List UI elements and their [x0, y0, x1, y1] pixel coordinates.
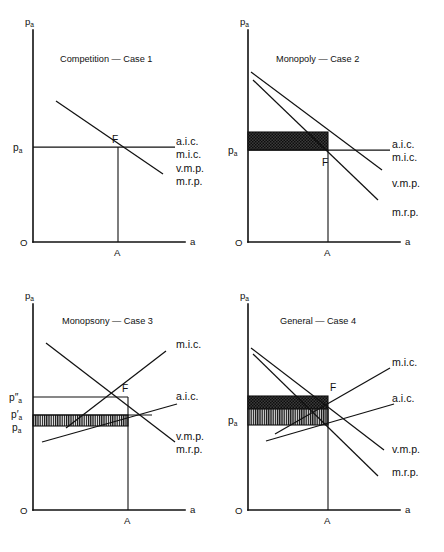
point-label-f-case-4: F [330, 382, 336, 393]
point-label-f-case-3: F [122, 383, 128, 394]
curve-label-mic-case-3: m.i.c. [176, 338, 201, 350]
price-label-pa-prime-case-3: p′a [11, 409, 23, 421]
origin-label-case-3: O [20, 505, 27, 516]
point-label-f-case-1: F [112, 134, 118, 145]
y-axis-label-case-4: pa [240, 290, 249, 302]
curve-label-mic-case-1: m.i.c. [176, 148, 201, 160]
curve-label-aic-case-4: a.i.c. [392, 392, 414, 404]
price-label-pa-case-3: pa [12, 422, 22, 434]
curve-label-aic-case-3: a.i.c. [176, 390, 198, 402]
x-axis-label-case-2: a [405, 236, 411, 247]
tick-label-a-case-1: A [114, 247, 121, 258]
panel-case-2: pa a O Monopoly — Case 2 pa F A a.i.c. m… [222, 0, 444, 276]
origin-label-case-4: O [235, 505, 242, 516]
curve-label-mrp-case-2: m.r.p. [392, 206, 419, 218]
curve-label-vmp-case-3: v.m.p. [176, 430, 204, 442]
y-axis-label-case-1: pa [25, 16, 34, 28]
chart-case-3: pa a O Monopsony — Case 3 p″a p′a pa F A [0, 276, 222, 552]
curve-label-mic-case-4: m.i.c. [392, 356, 417, 368]
price-label-pa-case-4: pa [228, 415, 238, 427]
curve-label-mrp-case-1: m.r.p. [176, 175, 203, 187]
curve-label-aic-case-2: a.i.c. [392, 138, 414, 150]
panel-case-3: pa a O Monopsony — Case 3 p″a p′a pa F A [0, 276, 222, 552]
curve-label-vmp-case-1: v.m.p. [176, 162, 204, 174]
chart-case-2: pa a O Monopoly — Case 2 pa F A a.i.c. m… [222, 0, 444, 276]
y-axis-label-case-3: pa [25, 290, 34, 302]
x-axis-label-case-1: a [190, 236, 196, 247]
curve-label-aic-case-1: a.i.c. [176, 135, 198, 147]
price-label-pa-case-1: pa [13, 142, 23, 154]
panel-title-case-1: Competition — Case 1 [60, 54, 152, 64]
panel-title-case-4: General — Case 4 [280, 316, 356, 326]
curve-label-mic-case-2: m.i.c. [392, 151, 417, 163]
tick-label-a-case-4: A [324, 515, 331, 526]
figure-four-cases: pa a O Competition — Case 1 pa F A a.i.c… [0, 0, 444, 552]
x-axis-label-case-3: a [190, 504, 196, 515]
origin-label-case-1: O [20, 237, 27, 248]
y-axis-label-case-2: pa [240, 16, 249, 28]
curve-label-mrp-case-3: m.r.p. [176, 443, 203, 455]
chart-case-1: pa a O Competition — Case 1 pa F A a.i.c… [0, 0, 222, 276]
x-axis-label-case-4: a [405, 504, 411, 515]
curve-vmp-mrp-case-3 [46, 343, 175, 442]
chart-case-4: pa a O General — Case 4 pa F A m.i.c. a.… [222, 276, 444, 552]
shaded-rect-monopsony-case-4 [248, 409, 328, 425]
curve-label-vmp-case-2: v.m.p. [392, 177, 420, 189]
origin-label-case-2: O [235, 237, 242, 248]
panel-case-1: pa a O Competition — Case 1 pa F A a.i.c… [0, 0, 222, 276]
price-label-pa-double-prime-case-3: p″a [9, 392, 22, 404]
curve-vmp-mrp-case-1 [56, 101, 163, 174]
tick-label-a-case-2: A [324, 247, 331, 258]
curve-label-mrp-case-4: m.r.p. [392, 466, 419, 478]
panel-title-case-2: Monopoly — Case 2 [276, 54, 359, 64]
curve-label-vmp-case-4: v.m.p. [392, 443, 420, 455]
point-label-f-case-2: F [322, 157, 328, 168]
tick-label-a-case-3: A [124, 515, 131, 526]
panel-case-4: pa a O General — Case 4 pa F A m.i.c. a.… [222, 276, 444, 552]
panel-title-case-3: Monopsony — Case 3 [62, 316, 153, 326]
curve-vmp-case-2 [251, 72, 382, 170]
price-label-pa-case-2: pa [228, 145, 238, 157]
